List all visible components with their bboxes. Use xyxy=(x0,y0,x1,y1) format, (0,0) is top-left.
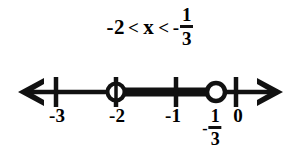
axis-fraction-denominator: 3 xyxy=(209,129,222,148)
fraction-numerator: 1 xyxy=(180,5,194,25)
axis-label-neg-one-third: - 1 3 xyxy=(202,108,221,149)
axis-label-neg1: -1 xyxy=(165,106,181,125)
open-circle-endpoint-neg-one-third xyxy=(207,83,225,101)
number-line: -3 -2 -1 0 - 1 3 xyxy=(0,68,300,164)
inequality-expression: -2<x<- 1 3 xyxy=(0,6,300,49)
axis-label-neg2: -2 xyxy=(109,106,125,125)
inequality-left-value: -2 xyxy=(107,17,126,38)
inequality-right-fraction: 1 3 xyxy=(180,5,194,48)
inequality-variable: x xyxy=(142,17,155,38)
inequality-right-relation: < xyxy=(155,18,172,37)
inequality-right-negative-sign: - xyxy=(173,18,180,37)
number-line-axis xyxy=(0,68,300,128)
open-circle-endpoint-neg2 xyxy=(108,79,125,105)
inequality-left-relation: < xyxy=(125,18,142,37)
axis-label-zero: 0 xyxy=(233,106,243,125)
fraction-denominator: 3 xyxy=(180,28,194,48)
axis-fraction: 1 3 xyxy=(209,107,222,148)
axis-fraction-numerator: 1 xyxy=(209,107,222,126)
axis-label-neg3: -3 xyxy=(49,106,65,125)
